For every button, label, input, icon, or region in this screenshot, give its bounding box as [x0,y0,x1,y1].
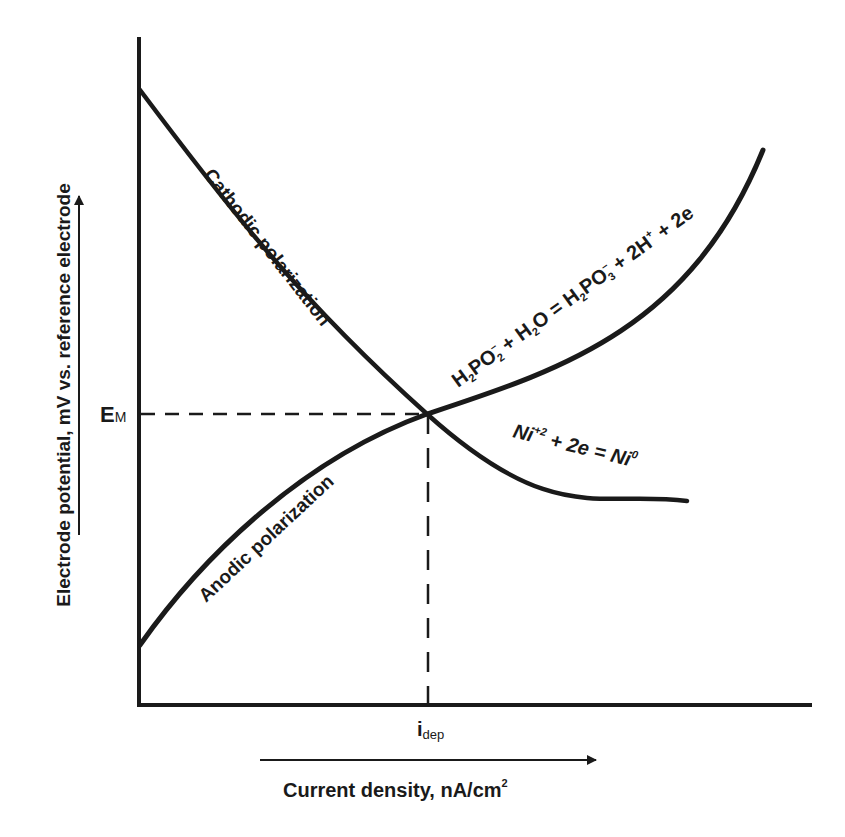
cathodic-polarization-curve [140,90,687,501]
cathodic-polarization-label: Cathodic polarization [200,165,335,330]
hypophosphite-oxidation-reaction-label: H2PO2– + H2O = H2PO3– + 2H+ + 2e [447,200,699,392]
x-axis-label: Current density, nA/cm2 [283,777,508,801]
nickel-reduction-reaction-label: Ni+2 + 2e = Ni0 [511,419,640,472]
y-axis-label: Electrode potential, mV vs. reference el… [53,183,74,606]
em-label: EM [100,402,126,427]
idep-label: idep [417,718,444,742]
anodic-polarization-label: Anodic polarization [194,470,337,606]
polarization-diagram: Electrode potential, mV vs. reference el… [0,0,845,837]
